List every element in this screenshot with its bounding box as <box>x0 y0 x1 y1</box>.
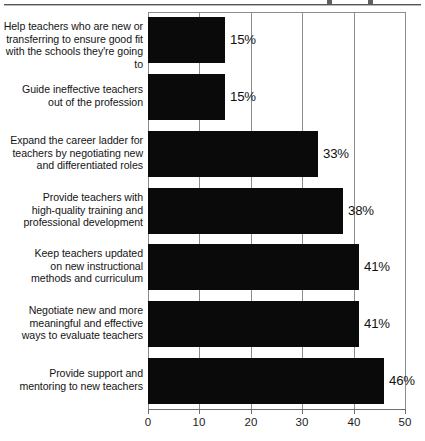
category-label: Negotiate new and moremeaningful and eff… <box>22 304 143 342</box>
category-label-line: Provide teachers with <box>23 191 143 204</box>
category-label-line: with the schools they're going to <box>0 45 143 70</box>
bar <box>148 17 225 63</box>
x-tick-0 <box>148 409 149 414</box>
category-label: Provide support andmentoring to new teac… <box>19 367 143 392</box>
bar-value-label: 46% <box>389 373 415 388</box>
category-label-line: transferring to ensure good fit <box>0 33 143 46</box>
bar <box>148 358 384 404</box>
x-tick-10 <box>199 409 200 414</box>
category-label-line: meaningful and effective <box>22 317 143 330</box>
x-tick-20 <box>251 409 252 414</box>
x-tick-label-30: 30 <box>287 416 317 428</box>
category-label-line: teachers by negotiating new <box>10 147 143 160</box>
category-label-line: Keep teachers updated <box>31 247 143 260</box>
bar <box>148 301 359 347</box>
x-tick-30 <box>302 409 303 414</box>
bar <box>148 131 318 177</box>
category-label: Expand the career ladder forteachers by … <box>10 134 143 172</box>
category-label-line: professional development <box>23 216 143 229</box>
category-label: Guide ineffective teachersout of the pro… <box>22 83 143 108</box>
bar-value-label: 41% <box>364 259 390 274</box>
bar <box>148 74 225 120</box>
category-label-line: mentoring to new teachers <box>19 380 143 393</box>
x-tick-50 <box>405 409 406 414</box>
category-label-line: on new instructional <box>31 260 143 273</box>
bar <box>148 188 343 234</box>
category-label-line: out of the profession <box>22 96 143 109</box>
category-label-line: Expand the career ladder for <box>10 134 143 147</box>
bar-value-label: 38% <box>348 203 374 218</box>
category-label-line: ways to evaluate teachers <box>22 329 143 342</box>
bar <box>148 244 359 290</box>
category-label-line: Guide ineffective teachers <box>22 83 143 96</box>
category-label: Keep teachers updatedon new instructiona… <box>31 247 143 285</box>
x-tick-40 <box>354 409 355 414</box>
category-label: Provide teachers withhigh-quality traini… <box>23 191 143 229</box>
x-tick-label-50: 50 <box>390 416 420 428</box>
category-label-line: high-quality training and <box>23 204 143 217</box>
bar-value-label: 41% <box>364 316 390 331</box>
category-label: Help teachers who are new ortransferring… <box>0 20 143 70</box>
category-label-line: methods and curriculum <box>31 272 143 285</box>
x-tick-label-40: 40 <box>339 416 369 428</box>
bar-value-label: 15% <box>230 89 256 104</box>
bar-value-label: 15% <box>230 32 256 47</box>
x-axis-line <box>148 409 406 410</box>
category-label-line: Provide support and <box>19 367 143 380</box>
horizontal-bar-chart: 01020304050 Help teachers who are new or… <box>0 0 425 441</box>
gridline-50 <box>405 12 406 409</box>
x-tick-label-10: 10 <box>184 416 214 428</box>
x-tick-label-20: 20 <box>236 416 266 428</box>
bar-value-label: 33% <box>323 146 349 161</box>
category-label-line: and differentiated roles <box>10 159 143 172</box>
x-tick-label-0: 0 <box>133 416 163 428</box>
category-label-line: Negotiate new and more <box>22 304 143 317</box>
category-label-line: Help teachers who are new or <box>0 20 143 33</box>
